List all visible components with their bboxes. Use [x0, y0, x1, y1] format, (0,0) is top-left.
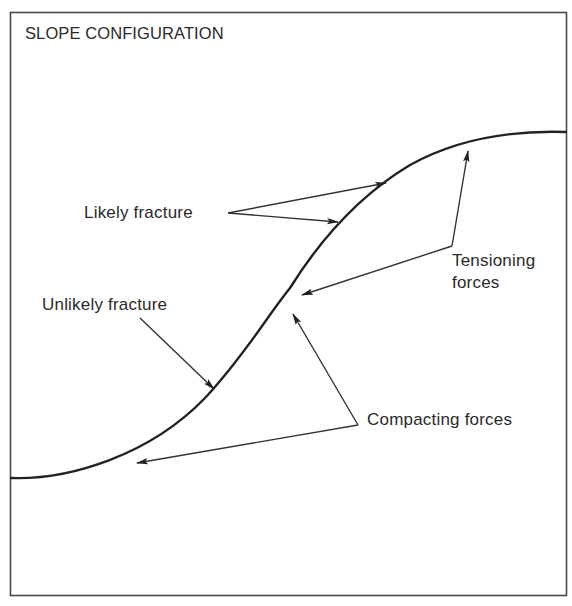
tensioning-forces-label-line1: Tensioning [452, 251, 535, 271]
unlikely-fracture-label: Unlikely fracture [42, 295, 167, 315]
likely-fracture-arrows [228, 183, 386, 222]
tensioning-forces-arrows [302, 151, 468, 295]
unlikely-fracture-arrow [140, 318, 214, 389]
likely-fracture-label: Likely fracture [84, 203, 193, 223]
tensioning-forces-label-line2: forces [452, 273, 500, 293]
diagram-title: SLOPE CONFIGURATION [25, 23, 224, 43]
compacting-forces-label: Compacting forces [367, 410, 512, 430]
compacting-forces-arrows [137, 314, 358, 463]
